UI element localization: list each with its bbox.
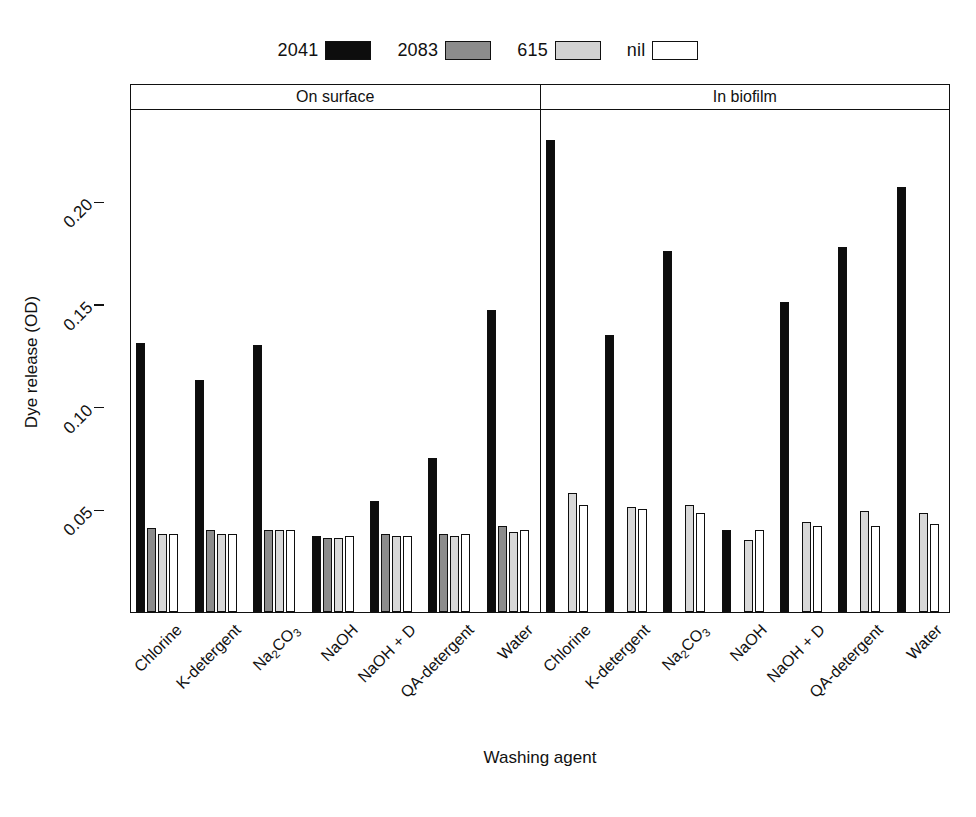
bars-in-biofilm bbox=[541, 110, 949, 612]
bar bbox=[780, 302, 789, 612]
strip-header-label: On surface bbox=[296, 88, 374, 106]
bar-group bbox=[195, 110, 237, 612]
bar bbox=[930, 524, 939, 612]
legend-label: 615 bbox=[517, 40, 548, 61]
y-axis-tick-label: 0.10 bbox=[60, 401, 98, 439]
legend-swatch-nil bbox=[652, 41, 698, 60]
panel-strip-headers: On surfaceIn biofilm bbox=[130, 84, 950, 110]
strip-header-on-surface: On surface bbox=[131, 85, 540, 109]
bar-group bbox=[605, 110, 647, 612]
bar bbox=[323, 538, 332, 612]
bar bbox=[813, 526, 822, 612]
bar bbox=[860, 511, 869, 612]
bar bbox=[509, 532, 518, 612]
bar bbox=[439, 534, 448, 612]
bar bbox=[605, 335, 614, 612]
chart-legend: 20412083615nil bbox=[0, 40, 976, 61]
bar bbox=[696, 513, 705, 612]
x-axis-title: Washing agent bbox=[130, 748, 950, 768]
bar bbox=[370, 501, 379, 612]
bar-group bbox=[546, 110, 588, 612]
panel-in-biofilm bbox=[540, 110, 949, 612]
bar-group bbox=[370, 110, 412, 612]
bar bbox=[487, 310, 496, 612]
bar-group bbox=[428, 110, 470, 612]
legend-swatch-2083 bbox=[445, 41, 491, 60]
bar bbox=[755, 530, 764, 612]
panel-on-surface bbox=[131, 110, 540, 612]
bar bbox=[334, 538, 343, 612]
bar-group bbox=[897, 110, 939, 612]
bar bbox=[685, 505, 694, 612]
bar bbox=[403, 536, 412, 612]
bar bbox=[428, 458, 437, 612]
bar bbox=[897, 187, 906, 612]
bar bbox=[498, 526, 507, 612]
y-axis: Dye release (OD) 0.050.100.150.20 bbox=[0, 110, 130, 613]
bar bbox=[206, 530, 215, 612]
bar bbox=[264, 530, 273, 612]
bar bbox=[520, 530, 529, 612]
legend-label: nil bbox=[627, 40, 646, 61]
bar bbox=[195, 380, 204, 612]
strip-header-label: In biofilm bbox=[713, 88, 777, 106]
y-axis-tick-label: 0.15 bbox=[60, 298, 98, 336]
plot-area bbox=[130, 110, 950, 613]
bar bbox=[217, 534, 226, 612]
bar bbox=[919, 513, 928, 612]
bar-group bbox=[253, 110, 295, 612]
bar bbox=[253, 345, 262, 612]
bar bbox=[286, 530, 295, 612]
x-axis-tick-label: Water bbox=[903, 621, 945, 663]
bar bbox=[546, 140, 555, 612]
figure-bar-chart: 20412083615nil On surfaceIn biofilm Dye … bbox=[0, 0, 976, 817]
legend-entry-2083[interactable]: 2083 bbox=[397, 40, 491, 61]
strip-header-in-biofilm: In biofilm bbox=[540, 85, 950, 109]
legend-entry-615[interactable]: 615 bbox=[517, 40, 601, 61]
bar bbox=[147, 528, 156, 612]
bar-group bbox=[663, 110, 705, 612]
legend-label: 2041 bbox=[278, 40, 319, 61]
bar bbox=[312, 536, 321, 612]
bar bbox=[744, 540, 753, 612]
bar bbox=[838, 247, 847, 612]
bar bbox=[381, 534, 390, 612]
bar bbox=[136, 343, 145, 612]
legend-swatch-2041 bbox=[325, 41, 371, 60]
bar bbox=[663, 251, 672, 612]
bar-group bbox=[312, 110, 354, 612]
bar-group bbox=[780, 110, 822, 612]
legend-entry-2041[interactable]: 2041 bbox=[278, 40, 372, 61]
x-axis: ChlorineK-detergentNa2CO3NaOHNaOH + DQA-… bbox=[130, 613, 950, 753]
legend-label: 2083 bbox=[397, 40, 438, 61]
x-axis-tick-label: NaOH bbox=[726, 621, 770, 665]
y-axis-tick bbox=[94, 202, 104, 204]
bar bbox=[627, 507, 636, 612]
bar-group bbox=[136, 110, 178, 612]
bar-group bbox=[487, 110, 529, 612]
legend-entry-nil[interactable]: nil bbox=[627, 40, 699, 61]
y-axis-tick bbox=[94, 304, 104, 306]
x-axis-tick-label: Chlorine bbox=[131, 621, 186, 676]
bar bbox=[871, 526, 880, 612]
bar-group bbox=[838, 110, 880, 612]
bar bbox=[461, 534, 470, 612]
bar bbox=[802, 522, 811, 612]
bar bbox=[450, 536, 459, 612]
y-axis-tick bbox=[94, 407, 104, 409]
bars-on-surface bbox=[131, 110, 540, 612]
x-axis-tick-label: Chlorine bbox=[540, 621, 595, 676]
legend-swatch-615 bbox=[555, 41, 601, 60]
bar bbox=[345, 536, 354, 612]
y-axis-tick-label: 0.05 bbox=[60, 503, 98, 541]
bar bbox=[228, 534, 237, 612]
bar bbox=[638, 509, 647, 612]
bar bbox=[169, 534, 178, 612]
bar bbox=[392, 536, 401, 612]
bar bbox=[158, 534, 167, 612]
x-axis-tick-label: Na2CO3 bbox=[250, 621, 304, 675]
bar bbox=[275, 530, 284, 612]
bar bbox=[568, 493, 577, 612]
y-axis-title: Dye release (OD) bbox=[22, 252, 42, 472]
y-axis-tick bbox=[94, 510, 104, 512]
